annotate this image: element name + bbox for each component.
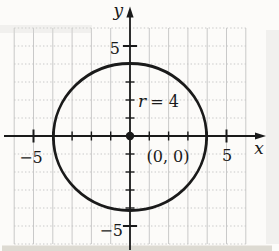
x-max-tick-label: 5 bbox=[222, 146, 232, 165]
y-axis-label: y bbox=[112, 0, 123, 20]
radius-annotation: r= 4 bbox=[138, 91, 179, 111]
y-min-tick-label: −5 bbox=[99, 221, 123, 240]
coordinate-plane-figure: y x 5 −5 −5 5 r= 4 (0, 0) bbox=[0, 0, 279, 251]
center-annotation: (0, 0) bbox=[146, 147, 189, 166]
paper-background bbox=[0, 0, 279, 251]
figure-canvas: y x 5 −5 −5 5 r= 4 (0, 0) bbox=[0, 0, 279, 251]
radius-equation: = 4 bbox=[150, 92, 179, 111]
x-axis-label: x bbox=[254, 138, 264, 158]
origin-dot bbox=[126, 132, 134, 140]
x-min-tick-label: −5 bbox=[19, 148, 43, 167]
radius-variable: r bbox=[138, 91, 147, 111]
y-max-tick-label: 5 bbox=[110, 39, 120, 58]
